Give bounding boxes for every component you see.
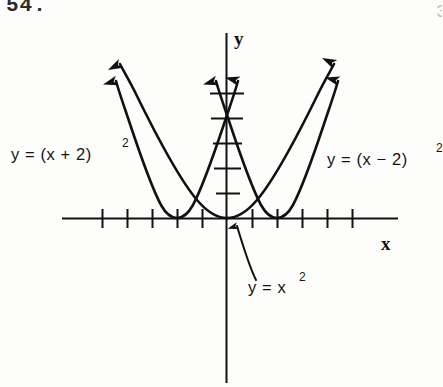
parabola-right-branch-left xyxy=(216,81,277,218)
x-axis-label: x xyxy=(381,233,391,254)
center-label-pointer-arrow xyxy=(237,226,256,280)
parabola-figure: y x y = (x + 2) 2 y = (x − 2) 2 y = x 2 xyxy=(0,0,443,387)
textbook-page: 54. 3 xyxy=(0,0,443,387)
axes-group xyxy=(62,33,398,383)
right-parabola-label-exponent: 2 xyxy=(436,141,443,155)
parabola-right xyxy=(216,81,338,218)
center-parabola-label-exponent: 2 xyxy=(299,270,306,284)
right-parabola-label: y = (x − 2) 2 xyxy=(327,141,443,168)
parabola-left-branch-right xyxy=(177,81,238,218)
left-parabola-label-exponent: 2 xyxy=(122,136,129,150)
left-parabola-label: y = (x + 2) 2 xyxy=(11,136,129,163)
center-parabola-label: y = x 2 xyxy=(248,270,306,296)
left-parabola-label-text: y = (x + 2) xyxy=(11,145,92,163)
parabola-left xyxy=(116,81,238,218)
right-parabola-label-text: y = (x − 2) xyxy=(327,150,408,168)
center-parabola-label-text: y = x xyxy=(248,278,286,296)
y-axis-label: y xyxy=(234,28,244,49)
